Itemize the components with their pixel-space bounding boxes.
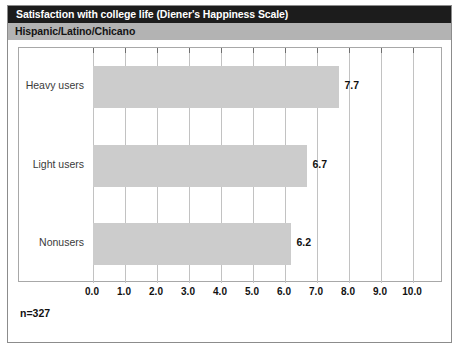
x-axis-tick: [221, 48, 222, 53]
x-axis-tick: [93, 48, 94, 53]
x-axis-tick-label: 10.0: [387, 286, 437, 297]
x-axis-tick: [125, 48, 126, 53]
bar-value-label: 7.7: [344, 79, 359, 91]
category-label: Light users: [16, 158, 84, 170]
x-axis-tick: [381, 48, 382, 53]
chart-title: Satisfaction with college life (Diener's…: [16, 8, 288, 20]
x-axis-tick: [253, 48, 254, 53]
gridline: [381, 48, 382, 283]
x-axis-tick: [349, 48, 350, 53]
category-label: Nonusers: [16, 236, 84, 248]
chart-title-bar: Satisfaction with college life (Diener's…: [8, 6, 451, 23]
chart-subtitle: Hispanic/Latino/Chicano: [15, 25, 135, 37]
bar-value-label: 6.7: [312, 158, 327, 170]
bar: [93, 66, 339, 108]
chart-figure: Satisfaction with college life (Diener's…: [0, 0, 459, 352]
x-axis-tick: [189, 48, 190, 53]
chart-subtitle-bar: Hispanic/Latino/Chicano: [8, 23, 451, 40]
x-axis-tick: [317, 48, 318, 53]
sample-size-footnote: n=327: [20, 307, 50, 319]
category-label: Heavy users: [16, 79, 84, 91]
x-axis-tick: [157, 48, 158, 53]
bar: [93, 145, 307, 187]
x-axis-tick: [413, 48, 414, 53]
bar: [93, 223, 291, 265]
gridline: [413, 48, 414, 283]
bar-value-label: 6.2: [296, 236, 311, 248]
x-axis-tick: [285, 48, 286, 53]
